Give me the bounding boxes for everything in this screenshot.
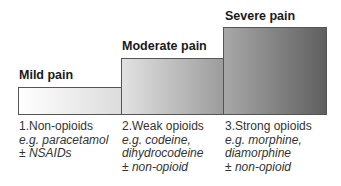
example-line: diamorphine [225, 147, 312, 161]
drug-class-label: 1.Non-opioids [19, 120, 108, 134]
example-line: dihydrocodeine [122, 147, 204, 161]
example-line: ± non-opioid [122, 161, 204, 175]
example-line: e.g. morphine, [225, 134, 312, 148]
drug-class-label: 2.Weak opioids [122, 120, 204, 134]
step-description-2: 2.Weak opioids e.g. codeine, dihydrocode… [122, 120, 204, 174]
example-line: e.g. paracetamol [19, 134, 108, 148]
ladder-step-mild [18, 87, 122, 115]
drug-class-label: 3.Strong opioids [225, 120, 312, 134]
step-title-severe: Severe pain [225, 9, 295, 23]
example-line: ± NSAIDs [19, 147, 108, 161]
step-title-mild: Mild pain [19, 68, 73, 82]
example-line: ± non-opioid [225, 161, 312, 175]
step-title-moderate: Moderate pain [122, 39, 207, 53]
step-description-1: 1.Non-opioids e.g. paracetamol ± NSAIDs [19, 120, 108, 161]
example-line: e.g. codeine, [122, 134, 204, 148]
step-description-3: 3.Strong opioids e.g. morphine, diamorph… [225, 120, 312, 174]
ladder-step-moderate [121, 58, 224, 115]
ladder-step-severe [223, 27, 327, 115]
